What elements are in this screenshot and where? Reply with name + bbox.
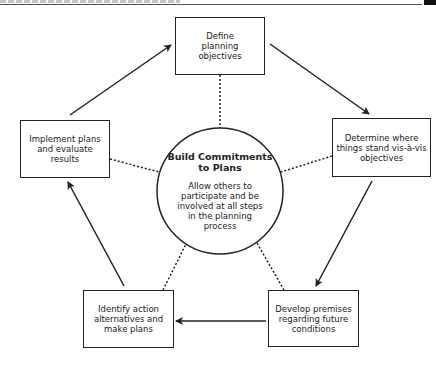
arrow-determine-to-develop [316, 181, 372, 286]
step-implement-box: Implement plans and evaluate results [20, 120, 110, 178]
step-define-box: Define planning objectives [175, 17, 265, 75]
step-identify-label: Identify action alternatives and make pl… [93, 304, 165, 334]
step-implement-label: Implement plans and evaluate results [25, 134, 105, 164]
arrow-identify-to-implement [68, 182, 124, 286]
spoke-implement [110, 159, 159, 172]
step-develop-label: Develop premises regarding future condit… [271, 304, 356, 334]
step-determine-label: Determine where things stand vis-à-vis o… [336, 133, 428, 163]
arrow-define-to-determine [270, 44, 369, 114]
center-content: Build Commitments to Plans Allow others … [157, 128, 283, 254]
step-identify-box: Identify action alternatives and make pl… [83, 290, 174, 348]
step-define-label: Define planning objectives [189, 31, 251, 61]
spoke-determine [281, 156, 332, 172]
center-body: Allow others to participate and be invol… [175, 181, 265, 231]
step-develop-box: Develop premises regarding future condit… [268, 290, 359, 347]
arrow-implement-to-define [70, 45, 171, 115]
step-determine-box: Determine where things stand vis-à-vis o… [332, 118, 431, 177]
center-title: Build Commitments to Plans [165, 151, 275, 173]
